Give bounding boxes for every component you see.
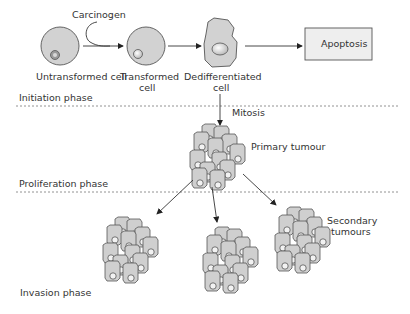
dedifferentiated-label-1: Dedifferentiated xyxy=(184,71,262,82)
initiation-phase-label: Initiation phase xyxy=(19,92,93,103)
transformed-cell xyxy=(127,27,165,65)
secondary-tumours-label-2: tumours xyxy=(331,226,371,237)
carcinogenesis-diagram: Carcinogen Untransformed cell Transforme… xyxy=(0,0,410,314)
proliferation-phase-label: Proliferation phase xyxy=(19,178,108,189)
primary-tumour-cluster xyxy=(190,124,245,190)
mitosis-label: Mitosis xyxy=(232,107,265,118)
apoptosis-label: Apoptosis xyxy=(321,38,367,49)
transformed-label-1: Transformed xyxy=(119,71,179,82)
primary-tumour-label: Primary tumour xyxy=(251,141,326,152)
arrow-to-secondary-1 xyxy=(157,180,193,214)
secondary-tumour-cluster-2 xyxy=(203,227,258,293)
dedifferentiated-cell xyxy=(204,18,237,67)
secondary-tumour-cluster-3 xyxy=(275,207,330,273)
untransformed-cell xyxy=(41,27,79,65)
untransformed-label: Untransformed cell xyxy=(36,71,127,82)
transformed-label-2: cell xyxy=(139,82,155,93)
dedifferentiated-label-2: cell xyxy=(213,82,229,93)
carcinogen-arrow xyxy=(86,22,110,46)
carcinogen-label: Carcinogen xyxy=(72,9,126,20)
arrow-to-secondary-3 xyxy=(243,174,276,205)
secondary-tumours-label-1: Secondary xyxy=(327,215,378,226)
secondary-tumour-cluster-1 xyxy=(103,217,158,283)
invasion-phase-label: Invasion phase xyxy=(20,287,92,298)
